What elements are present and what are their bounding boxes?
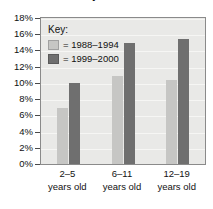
x-axis-years-old-text: years old [40, 180, 95, 193]
x-axis-age-range: 12–19 [163, 168, 189, 179]
y-axis-tick-mark [35, 164, 40, 165]
bar-light [112, 76, 123, 164]
x-axis-age-range: 2–5 [59, 168, 75, 179]
y-axis-tick-label: 12% [0, 62, 33, 72]
y-axis-tick-mark [35, 99, 40, 100]
y-axis-tick-mark [35, 148, 40, 149]
bar-dark [124, 43, 135, 164]
y-axis-tick-mark [35, 18, 40, 19]
y-axis-tick-mark [35, 132, 40, 133]
y-axis-tick-mark [35, 50, 40, 51]
chart-legend: Key: = 1988–1994 = 1999–2000 [47, 23, 151, 68]
legend-swatch-light-icon [48, 40, 59, 50]
y-axis-tick-label: 16% [0, 29, 33, 39]
x-axis-years-old-text: years old [149, 180, 204, 193]
y-axis-tick-label: 0% [0, 159, 33, 169]
legend-item-1999-2000: = 1999–2000 [48, 52, 151, 65]
y-axis-tick-label: 6% [0, 111, 33, 121]
bar-chart: and Obesity in U.S. Children 18%16%14%12… [0, 0, 213, 209]
y-axis-tick-mark [35, 83, 40, 84]
gridline [41, 19, 205, 20]
bar-light [57, 108, 68, 164]
chart-title: and Obesity in U.S. Children [0, 0, 213, 1]
legend-swatch-dark-icon [48, 54, 59, 64]
legend-label-1999-2000: = 1999–2000 [63, 54, 119, 64]
y-axis-labels: 18%16%14%12%10%8%6%4%2%0% [0, 17, 33, 165]
x-axis-labels: 2–5years old6–11years old12–19years old [40, 167, 206, 203]
bar-dark [178, 39, 189, 164]
plot-area: Key: = 1988–1994 = 1999–2000 [40, 17, 206, 165]
x-axis-group-label: 2–5years old [40, 167, 95, 193]
y-axis-tick-mark [35, 34, 40, 35]
x-axis-age-range: 6–11 [112, 168, 132, 179]
legend-title: Key: [48, 24, 151, 36]
y-axis-tick-label: 2% [0, 143, 33, 153]
x-axis-group-label: 12–19years old [149, 167, 204, 193]
bar-light [166, 80, 177, 164]
bar-dark [69, 83, 80, 164]
legend-item-1988-1994: = 1988–1994 [48, 38, 151, 51]
y-axis-tick-label: 8% [0, 94, 33, 104]
x-axis-group-label: 6–11years old [95, 167, 150, 193]
y-axis-tick-label: 10% [0, 78, 33, 88]
y-axis-tick-label: 14% [0, 46, 33, 56]
y-axis-tick-label: 18% [0, 13, 33, 23]
y-axis-tick-mark [35, 67, 40, 68]
legend-label-1988-1994: = 1988–1994 [63, 40, 119, 50]
x-axis-years-old-text: years old [95, 180, 150, 193]
y-axis-tick-label: 4% [0, 127, 33, 137]
y-axis-tick-mark [35, 115, 40, 116]
